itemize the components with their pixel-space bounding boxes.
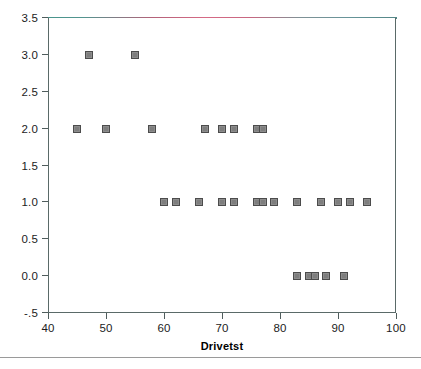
- y-axis-tick-mark: [42, 128, 48, 129]
- x-axis-tick-label: 40: [28, 321, 68, 335]
- y-axis-tick-label: 1.5: [21, 159, 38, 173]
- y-axis-tick: 1.0: [0, 195, 48, 209]
- x-axis-tick-label: 90: [318, 321, 358, 335]
- x-axis-tick-mark: [280, 313, 281, 319]
- y-axis-tick: 3.5: [0, 11, 48, 25]
- y-axis-tick: 2.5: [0, 85, 48, 99]
- x-axis-tick-label: 100: [376, 321, 416, 335]
- y-axis-tick: 0.5: [0, 232, 48, 246]
- x-axis-tick-label: 70: [202, 321, 242, 335]
- y-axis-tick-label: 1.0: [21, 195, 38, 209]
- x-axis-tick-mark: [106, 313, 107, 319]
- y-axis-tick: 0.0: [0, 269, 48, 283]
- y-axis-tick-label: 2.5: [21, 85, 38, 99]
- x-axis-tick-mark: [338, 313, 339, 319]
- y-axis: 3.53.02.52.01.51.00.50.0-.5: [0, 0, 421, 369]
- y-axis-tick-label: 3.5: [21, 11, 38, 25]
- y-axis-tick-mark: [42, 201, 48, 202]
- y-axis-tick: 1.5: [0, 159, 48, 173]
- x-axis-tick-label: 60: [144, 321, 184, 335]
- scatter-chart: 3.53.02.52.01.51.00.50.0-.5 405060708090…: [0, 0, 421, 369]
- y-axis-tick: -.5: [0, 306, 48, 320]
- x-axis-tick-mark: [222, 313, 223, 319]
- x-axis-tick-mark: [48, 313, 49, 319]
- x-axis-title: Drivetst: [48, 340, 396, 352]
- page-divider-rule: [0, 357, 421, 358]
- y-axis-tick: 3.0: [0, 48, 48, 62]
- x-axis-tick-mark: [164, 313, 165, 319]
- y-axis-tick-mark: [42, 275, 48, 276]
- y-axis-tick-mark: [42, 54, 48, 55]
- y-axis-tick-mark: [42, 91, 48, 92]
- y-axis-tick-label: 3.0: [21, 48, 38, 62]
- y-axis-tick-label: -.5: [24, 306, 38, 320]
- x-axis-tick-label: 50: [86, 321, 126, 335]
- y-axis-tick-label: 2.0: [21, 122, 38, 136]
- y-axis-tick-mark: [42, 165, 48, 166]
- y-axis-tick-label: 0.5: [21, 232, 38, 246]
- y-axis-tick: 2.0: [0, 122, 48, 136]
- x-axis-tick-label: 80: [260, 321, 300, 335]
- x-axis-tick-mark: [396, 313, 397, 319]
- y-axis-tick-mark: [42, 238, 48, 239]
- y-axis-tick-mark: [42, 17, 48, 18]
- y-axis-tick-label: 0.0: [21, 269, 38, 283]
